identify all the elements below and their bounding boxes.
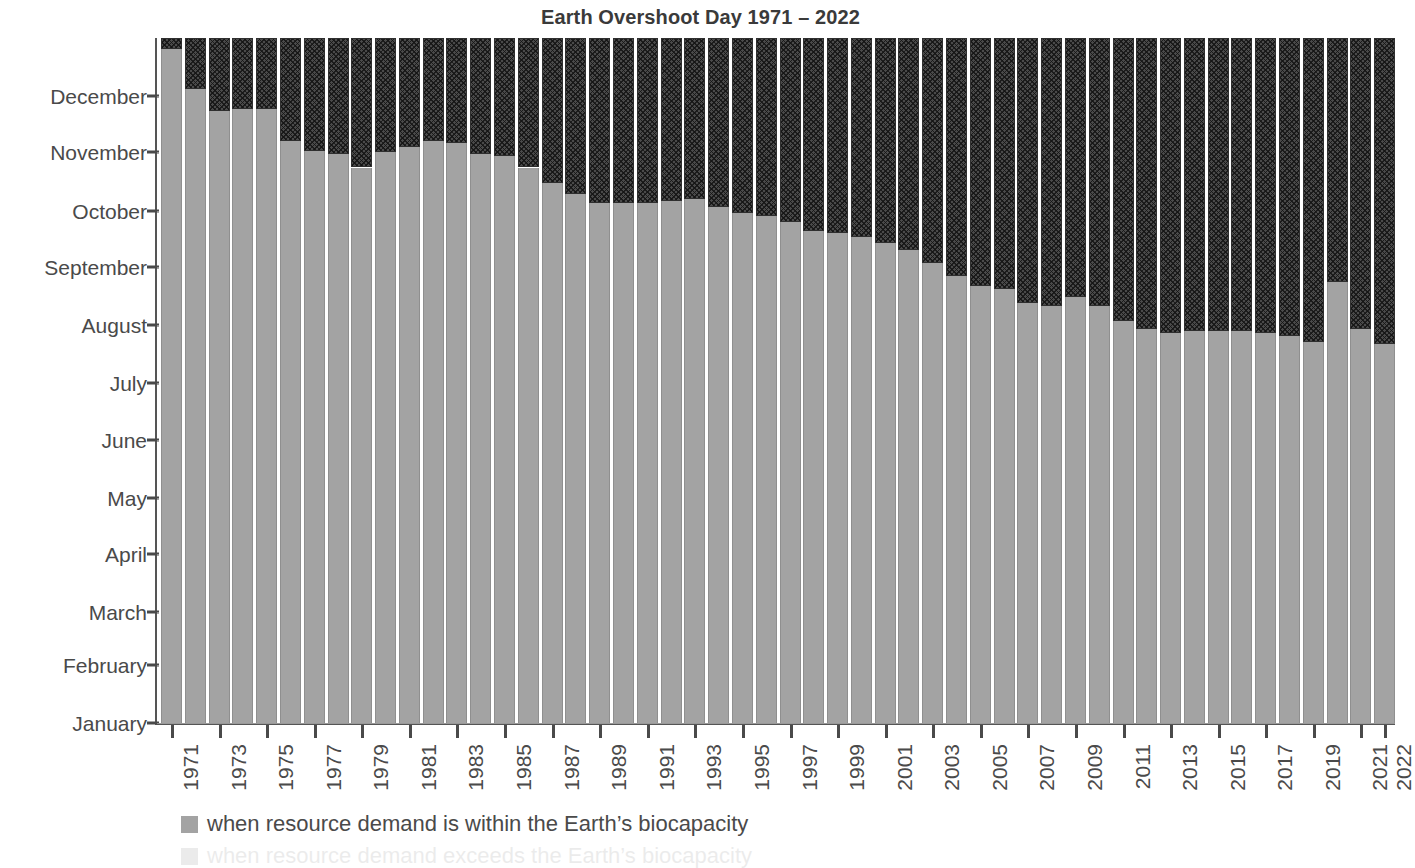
bar-segment-exceeds-1997 — [780, 38, 801, 222]
x-tick-label-2021: 2021 — [1369, 744, 1390, 791]
bar-segment-exceeds-2020 — [1327, 38, 1348, 282]
bar-1983[interactable] — [446, 38, 467, 723]
bar-2014[interactable] — [1184, 38, 1205, 723]
bar-2020[interactable] — [1327, 38, 1348, 723]
x-tick-mark-1999 — [837, 725, 840, 738]
plot-area — [157, 38, 1394, 723]
x-tick-label-1979: 1979 — [370, 744, 391, 791]
bar-1998[interactable] — [803, 38, 824, 723]
x-tick-label-2001: 2001 — [894, 744, 915, 791]
bar-1989[interactable] — [589, 38, 610, 723]
bar-1996[interactable] — [756, 38, 777, 723]
bar-1975[interactable] — [256, 38, 277, 723]
bar-2012[interactable] — [1136, 38, 1157, 723]
bar-1982[interactable] — [423, 38, 444, 723]
bar-segment-exceeds-2004 — [946, 38, 967, 276]
bar-2019[interactable] — [1303, 38, 1324, 723]
x-tick-label-2015: 2015 — [1227, 744, 1248, 791]
bar-segment-within-1994 — [708, 207, 729, 723]
y-tick-label-november: November — [50, 142, 147, 163]
bar-segment-exceeds-1995 — [732, 38, 753, 213]
x-tick-label-1973: 1973 — [228, 744, 249, 791]
x-tick-label-2022: 2022 — [1393, 744, 1414, 791]
x-tick-label-1983: 1983 — [465, 744, 486, 791]
bar-1993[interactable] — [684, 38, 705, 723]
bar-2015[interactable] — [1208, 38, 1229, 723]
x-tick-mark-2011 — [1123, 725, 1126, 738]
bar-1986[interactable] — [518, 38, 539, 723]
bar-2003[interactable] — [922, 38, 943, 723]
bar-1971[interactable] — [161, 38, 182, 723]
bar-segment-within-1977 — [304, 151, 325, 723]
bar-1973[interactable] — [209, 38, 230, 723]
bar-1992[interactable] — [661, 38, 682, 723]
bar-2010[interactable] — [1089, 38, 1110, 723]
x-tick-label-1999: 1999 — [846, 744, 867, 791]
bar-1978[interactable] — [328, 38, 349, 723]
bar-segment-exceeds-1994 — [708, 38, 729, 207]
bar-1972[interactable] — [185, 38, 206, 723]
bar-1999[interactable] — [827, 38, 848, 723]
bar-2002[interactable] — [898, 38, 919, 723]
x-tick-mark-2005 — [980, 725, 983, 738]
bar-segment-exceeds-1977 — [304, 38, 325, 151]
bar-1976[interactable] — [280, 38, 301, 723]
bar-1994[interactable] — [708, 38, 729, 723]
y-tick-label-december: December — [50, 86, 147, 107]
x-tick-mark-2017 — [1265, 725, 1268, 738]
bar-segment-exceeds-2017 — [1255, 38, 1276, 333]
bar-segment-exceeds-1976 — [280, 38, 301, 141]
bar-2016[interactable] — [1231, 38, 1252, 723]
bar-2001[interactable] — [875, 38, 896, 723]
x-axis-line — [155, 723, 1395, 725]
bar-1981[interactable] — [399, 38, 420, 723]
bar-segment-within-2005 — [970, 286, 991, 723]
legend: when resource demand is within the Earth… — [181, 813, 748, 835]
bar-1974[interactable] — [232, 38, 253, 723]
bar-1990[interactable] — [613, 38, 634, 723]
y-tick-label-may: May — [107, 487, 147, 508]
bar-2022[interactable] — [1374, 38, 1395, 723]
bar-1985[interactable] — [494, 38, 515, 723]
bar-2009[interactable] — [1065, 38, 1086, 723]
bar-2011[interactable] — [1113, 38, 1134, 723]
bar-1987[interactable] — [542, 38, 563, 723]
bar-segment-exceeds-1980 — [375, 38, 396, 152]
bar-2008[interactable] — [1041, 38, 1062, 723]
bar-2006[interactable] — [994, 38, 1015, 723]
legend-label-within: when resource demand is within the Earth… — [207, 813, 748, 835]
bar-1995[interactable] — [732, 38, 753, 723]
y-tick-label-july: July — [110, 373, 147, 394]
bar-2007[interactable] — [1017, 38, 1038, 723]
y-tick-label-february: February — [63, 654, 147, 675]
x-tick-label-2011: 2011 — [1132, 744, 1153, 789]
bar-1991[interactable] — [637, 38, 658, 723]
bar-segment-exceeds-2015 — [1208, 38, 1229, 331]
x-tick-mark-1977 — [314, 725, 317, 738]
x-tick-label-1995: 1995 — [751, 744, 772, 791]
bar-1977[interactable] — [304, 38, 325, 723]
bar-1997[interactable] — [780, 38, 801, 723]
bar-segment-exceeds-1985 — [494, 38, 515, 156]
bar-1984[interactable] — [470, 38, 491, 723]
x-tick-mark-1983 — [456, 725, 459, 738]
bar-2000[interactable] — [851, 38, 872, 723]
bar-2013[interactable] — [1160, 38, 1181, 723]
bar-2018[interactable] — [1279, 38, 1300, 723]
bar-2017[interactable] — [1255, 38, 1276, 723]
bar-segment-within-1992 — [661, 201, 682, 723]
bar-segment-within-2010 — [1089, 306, 1110, 723]
bar-segment-within-1986 — [518, 168, 539, 724]
bar-2005[interactable] — [970, 38, 991, 723]
bar-segment-exceeds-1992 — [661, 38, 682, 201]
bar-2004[interactable] — [946, 38, 967, 723]
chart-title: Earth Overshoot Day 1971 – 2022 — [0, 6, 1401, 29]
bar-2021[interactable] — [1350, 38, 1371, 723]
y-tick-label-march: March — [89, 602, 147, 623]
bar-segment-within-1997 — [780, 222, 801, 723]
bar-1988[interactable] — [565, 38, 586, 723]
bar-1980[interactable] — [375, 38, 396, 723]
bar-1979[interactable] — [351, 38, 372, 723]
y-tick-label-june: June — [101, 429, 147, 450]
